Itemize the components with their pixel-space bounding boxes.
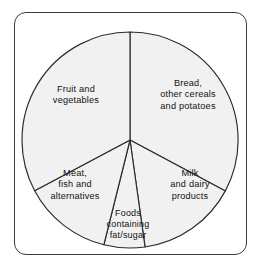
pie-label-milk-dairy-products: Milk and dairy products [152, 168, 228, 202]
pie-label-line: and potatoes [142, 101, 234, 112]
figure-root: Fruit and vegetables Bread, other cereal… [0, 0, 260, 270]
pie-label-line: alternatives [36, 191, 114, 202]
pie-label-line: Meat, [36, 168, 114, 179]
pie-label-line: Foods [96, 208, 160, 219]
pie-label-line: fat/sugar [96, 230, 160, 241]
pie-label-line: containing [96, 219, 160, 230]
pie-label-bread-cereals-potatoes: Bread, other cereals and potatoes [142, 78, 234, 112]
pie-label-line: Fruit and [34, 84, 118, 95]
pie-label-line: Bread, [142, 78, 234, 89]
pie-label-line: Milk [152, 168, 228, 179]
pie-label-foods-containing-fat-sugar: Foods containing fat/sugar [96, 208, 160, 241]
pie-label-meat-fish-alternatives: Meat, fish and alternatives [36, 168, 114, 202]
pie-label-line: and dairy [152, 179, 228, 190]
pie-label-line: products [152, 191, 228, 202]
pie-label-line: other cereals [142, 89, 234, 100]
pie-label-line: fish and [36, 179, 114, 190]
pie-label-line: vegetables [34, 95, 118, 106]
pie-label-fruit-and-vegetables: Fruit and vegetables [34, 84, 118, 107]
